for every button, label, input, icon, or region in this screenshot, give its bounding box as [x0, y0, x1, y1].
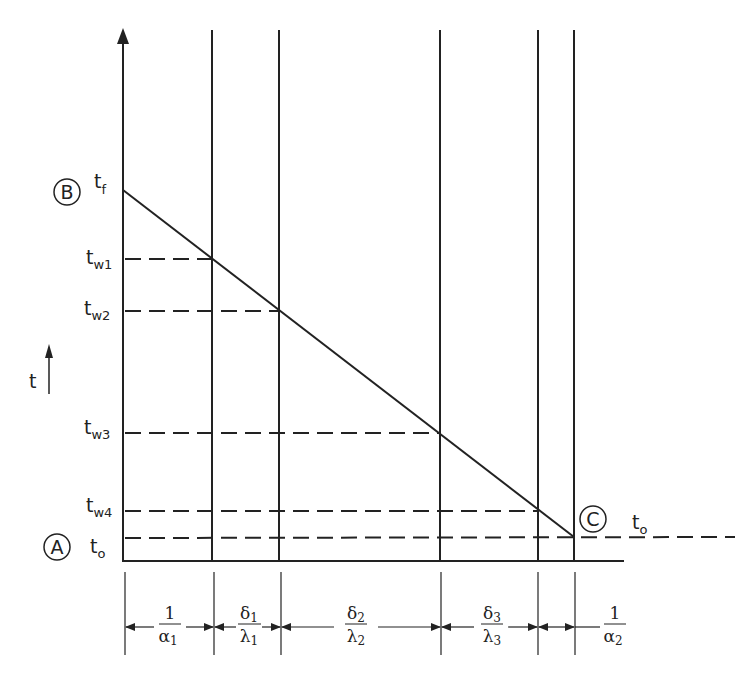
svg-text:δ3: δ3 — [483, 603, 501, 625]
label-tw2: tw2 — [84, 297, 110, 323]
label-tw1: tw1 — [86, 246, 112, 272]
point-C-marker: C — [580, 506, 606, 532]
label-tw4: tw4 — [86, 494, 112, 520]
resistance-2: δ1 λ1 — [238, 603, 261, 648]
label-to-right: to — [632, 511, 647, 537]
point-A-label: A — [51, 536, 64, 558]
resistance-4: δ3 λ3 — [481, 603, 503, 648]
svg-text:δ1: δ1 — [240, 603, 258, 625]
svg-text:λ2: λ2 — [347, 626, 365, 648]
composite-wall-diagram: t B A C tf tw1 tw2 tw3 tw4 to to — [0, 0, 755, 677]
resistance-1: 1 α1 — [158, 603, 181, 648]
temperature-profile-line — [123, 190, 574, 537]
svg-text:λ3: λ3 — [483, 626, 501, 648]
point-A-marker: A — [44, 534, 70, 560]
point-B-label: B — [60, 181, 73, 203]
label-to: to — [90, 535, 105, 561]
t-arrowhead — [45, 344, 53, 358]
label-tf: tf — [94, 170, 106, 197]
dashed-level-to — [125, 537, 735, 538]
point-B-marker: B — [54, 179, 80, 205]
svg-text:1: 1 — [610, 603, 621, 623]
t-axis-label: t — [29, 370, 36, 392]
svg-text:α1: α1 — [158, 626, 177, 648]
resistance-5: 1 α2 — [603, 603, 626, 648]
svg-text:1: 1 — [165, 603, 176, 623]
svg-text:δ2: δ2 — [347, 603, 365, 625]
axis-arrowhead — [117, 28, 129, 44]
point-C-label: C — [586, 508, 599, 530]
resistance-3: δ2 λ2 — [345, 603, 367, 648]
label-tw3: tw3 — [84, 416, 110, 442]
svg-text:α2: α2 — [603, 626, 622, 648]
svg-text:λ1: λ1 — [240, 626, 258, 648]
